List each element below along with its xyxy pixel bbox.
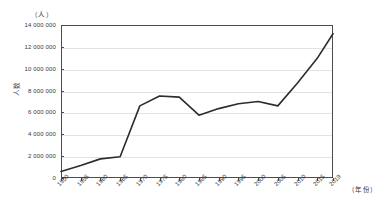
line-chart-figure: （人） 人数 02 000 0004 000 0006 000 0008 000… [0, 0, 389, 215]
population-line-series [0, 0, 389, 215]
series-polyline [61, 34, 333, 172]
